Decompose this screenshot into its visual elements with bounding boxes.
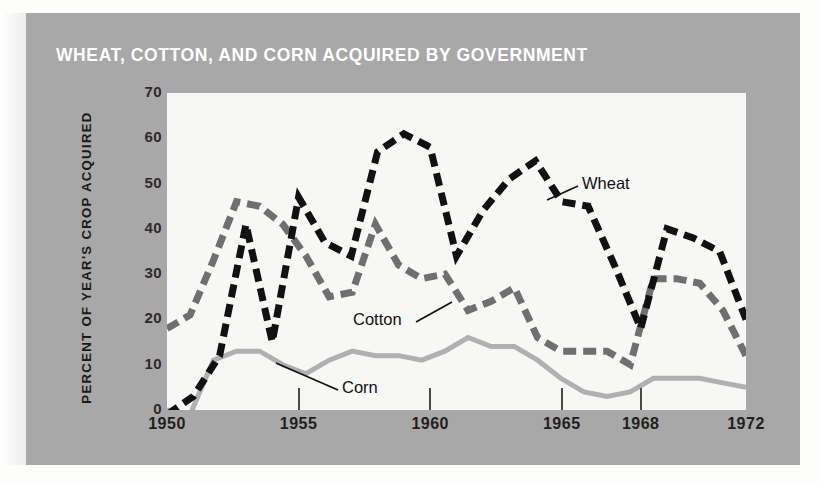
chart-screenshot: WHEAT, COTTON, AND CORN ACQUIRED BY GOVE… (0, 0, 819, 483)
series-label-corn: Corn (342, 378, 378, 397)
leader-line-corn (276, 363, 338, 390)
series-label-wheat: Wheat (582, 174, 630, 193)
series-label-cotton: Cotton (353, 310, 402, 329)
leader-line-wheat (547, 186, 578, 200)
annotation-leader-lines (0, 0, 819, 483)
leader-line-cotton (416, 302, 452, 322)
